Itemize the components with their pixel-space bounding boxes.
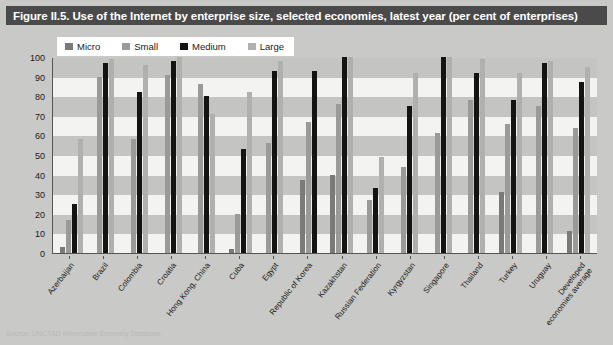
bar-group bbox=[190, 58, 224, 253]
bar-large bbox=[447, 57, 452, 253]
x-axis-tick bbox=[512, 256, 513, 259]
y-axis-tick-label: 90 bbox=[35, 73, 45, 83]
bar-group bbox=[224, 58, 258, 253]
y-axis-tick-label: 50 bbox=[35, 151, 45, 161]
bar-micro bbox=[330, 175, 335, 253]
y-axis: 0102030405060708090100 bbox=[6, 58, 50, 254]
y-axis-tick-label: 70 bbox=[35, 112, 45, 122]
bar-medium bbox=[511, 100, 516, 253]
bar-medium bbox=[474, 73, 479, 253]
bar-small bbox=[165, 75, 170, 253]
bar-large bbox=[210, 114, 215, 253]
x-axis-tick bbox=[307, 256, 308, 259]
bar-micro bbox=[229, 249, 234, 253]
x-axis-tick bbox=[239, 256, 240, 259]
bar-small bbox=[435, 133, 440, 253]
bar-group bbox=[291, 58, 325, 253]
bar-group bbox=[528, 58, 562, 253]
bar-small bbox=[235, 214, 240, 253]
bar-large bbox=[585, 67, 590, 253]
x-axis-tick bbox=[103, 256, 104, 259]
bar-medium bbox=[312, 71, 317, 253]
bar-group bbox=[123, 58, 157, 253]
x-axis-tick bbox=[546, 256, 547, 259]
y-axis-tick-label: 100 bbox=[30, 53, 45, 63]
figure-title-band: Figure II.5. Use of the Internet by ente… bbox=[6, 6, 607, 25]
legend-label: Micro bbox=[77, 41, 100, 52]
x-axis-tick-label: Brazil bbox=[91, 261, 110, 282]
x-axis-tick bbox=[580, 256, 581, 259]
bar-large bbox=[109, 59, 114, 253]
x-axis-tick bbox=[376, 256, 377, 259]
bar-micro bbox=[567, 231, 572, 253]
bar-small bbox=[367, 200, 372, 253]
y-axis-tick-label: 10 bbox=[35, 229, 45, 239]
x-axis-tick bbox=[137, 256, 138, 259]
x-axis-tick bbox=[273, 256, 274, 259]
bar-group bbox=[325, 58, 359, 253]
x-axis-tick bbox=[342, 256, 343, 259]
x-axis-tick bbox=[205, 256, 206, 259]
x-axis-tick bbox=[69, 256, 70, 259]
y-axis-tick-label: 40 bbox=[35, 171, 45, 181]
bar-medium bbox=[373, 188, 378, 253]
bar-large bbox=[379, 157, 384, 253]
legend-item-medium[interactable]: Medium bbox=[180, 41, 226, 52]
x-axis-tick-label: Colombia bbox=[116, 261, 144, 293]
bar-medium bbox=[103, 63, 108, 253]
bar-small bbox=[266, 143, 271, 253]
bar-medium bbox=[72, 204, 77, 253]
x-axis-tick bbox=[410, 256, 411, 259]
legend-item-large[interactable]: Large bbox=[248, 41, 284, 52]
bar-small bbox=[66, 220, 71, 253]
x-axis-tick-label: Singapore bbox=[421, 261, 451, 295]
bar-small bbox=[198, 84, 203, 253]
bar-small bbox=[336, 104, 341, 253]
page-title: Figure II.5. Use of the Internet by ente… bbox=[6, 10, 578, 22]
bar-small bbox=[97, 77, 102, 253]
bar-small bbox=[536, 106, 541, 253]
x-axis-tick bbox=[171, 256, 172, 259]
x-axis-tick-label: Thailand bbox=[459, 261, 485, 291]
bar-group bbox=[258, 58, 292, 253]
x-axis-tick-label: Kazakhstan bbox=[316, 261, 349, 299]
chart-legend: MicroSmallMediumLarge bbox=[57, 37, 294, 56]
x-axis-tick-label: Turkey bbox=[497, 261, 519, 286]
bar-small bbox=[573, 128, 578, 253]
bar-micro bbox=[499, 192, 504, 253]
bar-group bbox=[426, 58, 460, 253]
x-axis-tick bbox=[478, 256, 479, 259]
bar-group bbox=[460, 58, 494, 253]
bar-medium bbox=[407, 106, 412, 253]
bar-large bbox=[143, 65, 148, 253]
bar-group bbox=[156, 58, 190, 253]
bar-medium bbox=[137, 92, 142, 253]
x-axis-tick-label: Egypt bbox=[261, 261, 281, 283]
bar-group bbox=[89, 58, 123, 253]
bar-large bbox=[278, 61, 283, 253]
bar-group bbox=[561, 58, 595, 253]
bar-medium bbox=[579, 82, 584, 253]
bar-medium bbox=[542, 63, 547, 253]
bar-group bbox=[494, 58, 528, 253]
bar-large bbox=[517, 73, 522, 253]
y-axis-tick-label: 30 bbox=[35, 190, 45, 200]
y-axis-tick-label: 20 bbox=[35, 210, 45, 220]
bar-large bbox=[548, 61, 553, 253]
legend-label: Large bbox=[260, 41, 284, 52]
bar-medium bbox=[342, 57, 347, 253]
legend-label: Small bbox=[134, 41, 158, 52]
bar-large bbox=[247, 92, 252, 253]
x-axis-tick-label: Croatia bbox=[155, 261, 178, 287]
x-axis-tick bbox=[444, 256, 445, 259]
figure-container: Figure II.5. Use of the Internet by ente… bbox=[0, 0, 613, 345]
bar-medium bbox=[272, 71, 277, 253]
bar-group bbox=[55, 58, 89, 253]
legend-swatch-large-icon bbox=[248, 43, 256, 50]
legend-item-micro[interactable]: Micro bbox=[65, 41, 100, 52]
legend-item-small[interactable]: Small bbox=[122, 41, 158, 52]
bar-medium bbox=[441, 57, 446, 253]
chart-panel: MicroSmallMediumLarge 010203040506070809… bbox=[6, 28, 607, 319]
bar-small bbox=[131, 139, 136, 253]
x-axis-tick-label: Cuba bbox=[228, 261, 247, 282]
